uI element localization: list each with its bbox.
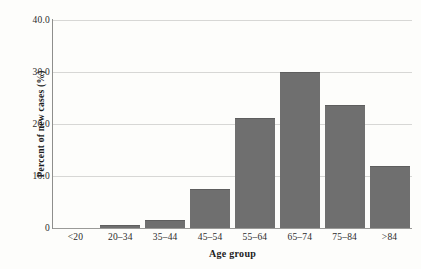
- bar-20–34[interactable]: [100, 225, 140, 228]
- bar-slot: [233, 20, 278, 228]
- x-tick-label: 35–44: [143, 232, 188, 242]
- y-tick-label: 40.0: [4, 15, 50, 25]
- bar-slot: [98, 20, 143, 228]
- bar-55–64[interactable]: [235, 118, 275, 228]
- bar-series: [53, 20, 412, 228]
- bar-75–84[interactable]: [325, 105, 365, 228]
- x-tick-label: <20: [53, 232, 98, 242]
- bar-slot: [188, 20, 233, 228]
- gridline-0: [53, 228, 412, 229]
- x-axis-tick-labels: <2020–3435–4445–5455–6465–7475–84>84: [53, 232, 412, 242]
- y-axis-tick-labels: 010.020.030.040.0: [0, 20, 50, 228]
- plot-area: [53, 20, 412, 228]
- bar-slot: [53, 20, 98, 228]
- x-tick-label: 20–34: [98, 232, 143, 242]
- x-tick-label: 55–64: [233, 232, 278, 242]
- bar-35–44[interactable]: [145, 220, 185, 228]
- y-tick-label: 30.0: [4, 67, 50, 77]
- x-tick-label: >84: [367, 232, 412, 242]
- x-tick-label: 65–74: [277, 232, 322, 242]
- bar-slot: [143, 20, 188, 228]
- bar-slot: [322, 20, 367, 228]
- y-tick-label: 10.0: [4, 171, 50, 181]
- y-tick-label: 0: [4, 223, 50, 233]
- bar-65–74[interactable]: [280, 72, 320, 228]
- y-tick-label: 20.0: [4, 119, 50, 129]
- x-tick-label: 45–54: [188, 232, 233, 242]
- x-tick-label: 75–84: [322, 232, 367, 242]
- bar-chart-figure: Percent of new cases (%) 010.020.030.040…: [0, 0, 421, 269]
- bar-45–54[interactable]: [190, 189, 230, 228]
- bar-slot: [367, 20, 412, 228]
- x-axis-title: Age group: [53, 248, 412, 259]
- bar-slot: [277, 20, 322, 228]
- bar->84[interactable]: [370, 166, 410, 228]
